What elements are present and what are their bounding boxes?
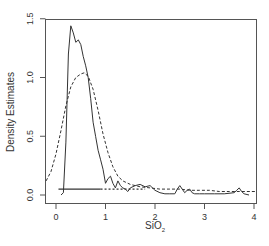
- x-tick-label: 1: [103, 212, 108, 222]
- y-tick-label: 1.5: [25, 12, 35, 25]
- y-axis-title: Density Estimates: [5, 72, 16, 152]
- x-axis-title: SiO2: [145, 220, 166, 233]
- y-tick-label: 0.5: [25, 130, 35, 143]
- density-chart: 0.00.51.01.5 01234 SiO2 Density Estimate…: [0, 0, 269, 246]
- x-tick-label: 3: [202, 212, 207, 222]
- y-tick-label: 0.0: [25, 189, 35, 202]
- x-tick-label: 0: [53, 212, 58, 222]
- y-tick-label: 1.0: [25, 71, 35, 84]
- x-tick-label: 4: [251, 212, 256, 222]
- dashed-density-curve: [46, 73, 256, 192]
- plot-area: [46, 26, 256, 195]
- solid-density-curve: [61, 26, 249, 195]
- plot-frame: [46, 20, 257, 204]
- y-axis: 0.00.51.01.5: [25, 12, 46, 201]
